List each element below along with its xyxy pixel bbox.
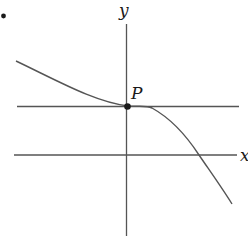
bullet-icon — [1, 14, 6, 19]
y-axis-label: y — [118, 0, 129, 20]
graph-figure: y x P — [0, 0, 248, 239]
x-axis-label: x — [240, 145, 248, 165]
point-p-marker — [124, 103, 131, 110]
point-p-label: P — [130, 83, 143, 103]
function-curve — [16, 61, 232, 204]
